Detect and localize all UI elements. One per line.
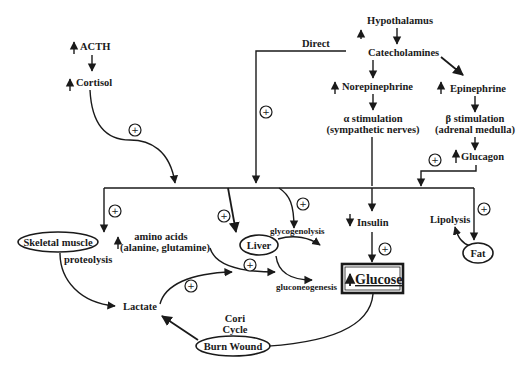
glucose-to-burn-line [248, 294, 373, 347]
to-glycogenolysis-arrow [279, 188, 294, 228]
to-liver-arrow [228, 188, 236, 232]
burn-metabolism-diagram: Hypothalamus Catecholamines Direct + Nor… [0, 0, 528, 372]
svg-text:+: + [246, 260, 254, 270]
cycle-label: Cycle [222, 324, 247, 335]
plus-icon: + [244, 259, 256, 271]
liver-gluconeogenesis-arrow [276, 256, 312, 280]
beta-stimulation-label: β stimulation [446, 113, 505, 124]
norepinephrine-label: Norepinephrine [342, 81, 413, 92]
gluconeogenesis-label: gluconeogenesis [276, 282, 337, 292]
svg-text:+: + [187, 281, 195, 291]
plus-icon: + [297, 198, 309, 210]
plus-icon: + [260, 106, 272, 118]
insulin-label: Insulin [357, 217, 389, 228]
plus-icon: + [429, 154, 441, 166]
glucose-label: Glucose [355, 272, 402, 287]
cori-label: Cori [225, 313, 245, 324]
plus-icon: + [129, 124, 141, 136]
svg-text:+: + [431, 155, 439, 165]
liver-label: Liver [247, 240, 272, 251]
catecholamines-label: Catecholamines [368, 47, 439, 58]
amino-acids-detail-label: (alanine, glutamine) [120, 242, 210, 254]
glycogenolysis-label: glycogenolysis [270, 226, 325, 236]
cat-epi-arrow [441, 57, 463, 75]
skeletal-muscle-label: Skeletal muscle [23, 237, 92, 248]
proteolysis-label: proteolysis [64, 254, 112, 265]
sympathetic-nerves-label: (sympathetic nerves) [326, 124, 420, 136]
plus-icon: + [185, 280, 197, 292]
svg-text:+: + [262, 107, 270, 117]
adrenal-medulla-label: (adrenal medulla) [435, 124, 516, 136]
alpha-stimulation-label: α stimulation [343, 113, 402, 124]
plus-icon: + [218, 210, 230, 222]
plus-icon: + [379, 243, 391, 255]
epinephrine-label: Epinephrine [450, 83, 506, 94]
svg-text:+: + [131, 125, 139, 135]
glucagon-line [421, 165, 476, 186]
lipolysis-label: Lipolysis [430, 214, 470, 225]
svg-text:+: + [480, 204, 488, 214]
svg-text:+: + [299, 199, 307, 209]
direct-label: Direct [302, 38, 330, 49]
plus-icon: + [478, 203, 490, 215]
burn-wound-label: Burn Wound [204, 341, 263, 352]
cortisol-pathway-line [90, 90, 175, 183]
acth-label: ACTH [80, 41, 110, 52]
fat-lipolysis-arrow [455, 227, 470, 246]
cortisol-label: Cortisol [76, 77, 112, 88]
svg-text:+: + [111, 206, 119, 216]
glucagon-label: Glucagon [461, 151, 504, 162]
fat-label: Fat [470, 248, 486, 259]
liver-glycogenolysis-arrow [278, 237, 320, 245]
lactate-label: Lactate [123, 301, 157, 312]
hypothalamus-label: Hypothalamus [367, 15, 433, 26]
svg-text:+: + [381, 244, 389, 254]
amino-acids-label: amino acids [134, 231, 187, 242]
svg-text:+: + [220, 211, 228, 221]
burn-lactate-arrow [162, 316, 198, 340]
plus-icon: + [109, 205, 121, 217]
